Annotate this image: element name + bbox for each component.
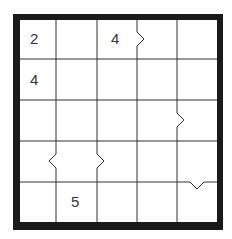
cell-r1c3[interactable]: 4 (111, 29, 131, 49)
puzzle-grid: 2 4 4 5 (20, 20, 217, 222)
cell-r1c1[interactable]: 2 (30, 29, 50, 49)
cell-r2c1[interactable]: 4 (30, 70, 50, 90)
cell-r5c2[interactable]: 5 (71, 192, 91, 212)
grid-lines (20, 20, 217, 222)
